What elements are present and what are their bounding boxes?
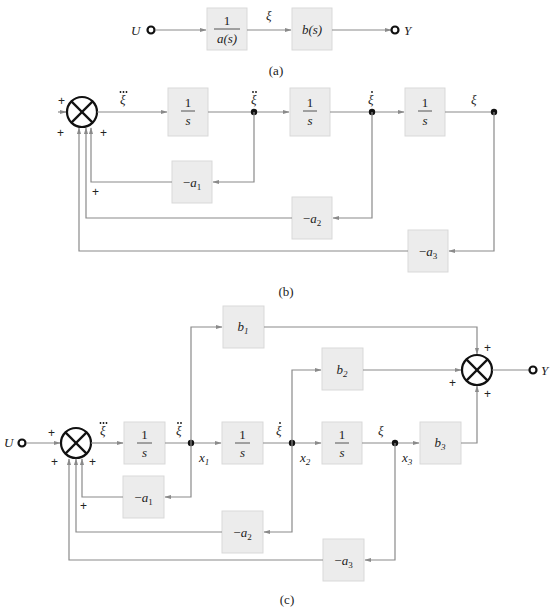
svg-text:1: 1 [185, 95, 192, 110]
svg-text:s: s [142, 445, 147, 460]
signal-label-xi-triple-dot: ξ [120, 91, 128, 107]
input-label-u: U [4, 435, 15, 450]
signal-label-xi: ξ [471, 92, 477, 107]
feedback-line-3 [449, 112, 494, 251]
sign-plus: + [92, 185, 99, 199]
sign-plus: + [100, 126, 107, 140]
caption-b: (b) [278, 284, 293, 299]
feedback-line-2 [264, 443, 292, 532]
svg-text:s: s [339, 445, 344, 460]
svg-text:1: 1 [339, 427, 346, 442]
svg-text:ξ: ξ [100, 423, 106, 438]
svg-text:s: s [185, 113, 190, 128]
input-port [19, 440, 26, 447]
state-label-x1: x1 [198, 450, 209, 467]
svg-text:ξ: ξ [176, 423, 182, 438]
b3-to-output-line [461, 386, 477, 443]
signal-label-xi-double-dot: ξ [176, 422, 182, 438]
svg-text:1: 1 [307, 95, 314, 110]
svg-text:ξ: ξ [276, 423, 282, 438]
output-label-y: Y [404, 23, 413, 38]
svg-text:ξ: ξ [368, 92, 374, 107]
feedback-line-3 [365, 443, 395, 560]
signal-label-xi-dot: ξ [368, 91, 374, 107]
block-b-label: b(s) [302, 22, 322, 37]
signal-label-xi: ξ [378, 423, 384, 438]
svg-text:ξ: ξ [120, 92, 126, 107]
sign-plus: + [48, 426, 55, 440]
sign-plus: + [484, 341, 491, 355]
block-numerator: 1 [224, 13, 231, 28]
feedback-line-1 [165, 443, 191, 497]
caption-a: (a) [269, 63, 283, 78]
svg-text:1: 1 [422, 95, 429, 110]
state-label-x2: x2 [299, 450, 311, 467]
signal-label-xi-double-dot: ξ [251, 91, 257, 107]
svg-text:1: 1 [141, 427, 148, 442]
b1-to-output-line [264, 327, 477, 354]
sign-plus: + [57, 126, 64, 140]
svg-text:1: 1 [239, 427, 246, 442]
sign-plus: + [89, 455, 96, 469]
sign-plus: + [449, 376, 456, 390]
feedback-return-3 [79, 128, 408, 251]
state-label-x3: x3 [401, 450, 413, 467]
signal-label-xi-triple-dot: ξ [100, 422, 108, 438]
sign-plus: + [80, 499, 87, 513]
block-denominator: a(s) [217, 31, 237, 46]
panel-c: U + + + ξ 1 s ξ x1 1 s ξ [4, 306, 550, 607]
output-label-y: Y [541, 363, 550, 378]
svg-text:ξ: ξ [251, 92, 257, 107]
feedback-line-1 [213, 112, 254, 182]
svg-text:s: s [240, 445, 245, 460]
caption-c: (c) [280, 592, 294, 607]
panel-b: + + + ξ 1 s ξ 1 s ξ 1 s [57, 88, 497, 299]
block-diagram-figure: U 1 a(s) ξ b(s) Y (a) + + + ξ 1 [0, 0, 553, 609]
svg-text:s: s [307, 113, 312, 128]
feedback-line-2 [333, 112, 372, 218]
output-port [530, 367, 537, 374]
sign-plus: + [58, 94, 65, 108]
signal-label-xi: ξ [266, 8, 272, 23]
panel-a: U 1 a(s) ξ b(s) Y (a) [131, 8, 413, 78]
feedback-return-3 [69, 459, 323, 560]
svg-text:s: s [422, 113, 427, 128]
input-label-u: U [131, 23, 142, 38]
signal-label-xi-dot: ξ [276, 422, 282, 438]
output-port [392, 27, 399, 34]
b1-input-line [191, 327, 222, 443]
sign-plus: + [51, 455, 58, 469]
input-port [148, 27, 155, 34]
sign-plus: + [484, 387, 491, 401]
b2-input-line [292, 370, 321, 443]
